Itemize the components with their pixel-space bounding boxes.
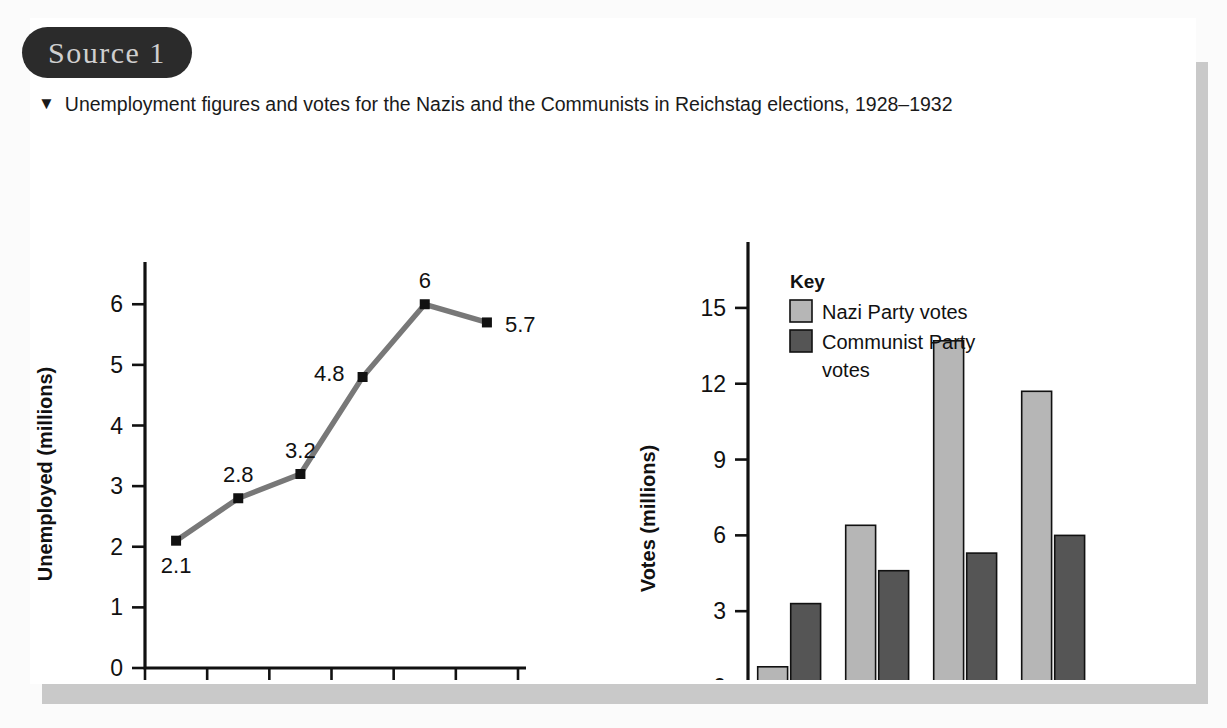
caption-text: Unemployment figures and votes for the N… [65, 92, 953, 116]
line-chart-data-point [295, 469, 305, 479]
bar-chart-y-tick-label: 9 [713, 447, 726, 473]
legend-title: Key [790, 271, 825, 292]
card-bottom-shadow [42, 692, 1208, 704]
line-chart-data-point [171, 536, 181, 546]
caption: ▼ Unemployment figures and votes for the… [38, 92, 1158, 116]
line-chart-point-label: 2.8 [223, 462, 254, 487]
line-chart-y-tick-label: 3 [110, 473, 123, 499]
legend-label-communist-line1: Communist Party [822, 331, 975, 353]
bar-chart-bar [846, 525, 876, 680]
bar-chart-y-tick-label: 6 [713, 522, 726, 548]
bar-chart-bar [879, 571, 909, 680]
bar-chart-y-tick-label: 3 [713, 598, 726, 624]
line-chart-axes [145, 262, 526, 668]
line-chart-series [176, 304, 487, 540]
legend-label-communist-line2: votes [822, 359, 870, 381]
line-chart-y-tick-label: 4 [110, 413, 123, 439]
legend-swatch-communist [790, 330, 812, 352]
bar-chart-y-tick-label: 0 [713, 674, 726, 680]
bar-chart-bar [934, 341, 964, 680]
bar-chart-y-axis-title: Votes (millions) [637, 445, 659, 592]
line-chart-data-point [233, 493, 243, 503]
legend-swatch-nazi [790, 300, 812, 322]
bar-chart-bar [791, 604, 821, 680]
line-chart-y-tick-label: 1 [110, 594, 123, 620]
bar-chart-bar [1055, 535, 1085, 680]
line-chart-y-tick-label: 6 [110, 291, 123, 317]
line-chart-y-tick-label: 0 [110, 655, 123, 680]
triangle-icon: ▼ [38, 92, 55, 116]
line-chart-point-label: 3.2 [285, 438, 316, 463]
charts-area: 0123456Unemployed (millions)1928Jan1929J… [0, 120, 1196, 680]
bar-chart-bar [758, 667, 788, 680]
line-chart-data-point [358, 372, 368, 382]
source-badge-label: Source 1 [48, 38, 166, 68]
source-badge: Source 1 [22, 27, 192, 78]
line-chart-y-tick-label: 5 [110, 352, 123, 378]
line-chart-data-point [482, 317, 492, 327]
line-chart-y-axis-title: Unemployed (millions) [34, 367, 56, 581]
line-chart-point-label: 6 [419, 268, 431, 293]
bar-chart-bar [967, 553, 997, 680]
legend-label-nazi: Nazi Party votes [822, 301, 968, 323]
charts-svg: 0123456Unemployed (millions)1928Jan1929J… [0, 120, 1196, 680]
line-chart-data-point [420, 299, 430, 309]
bar-chart-y-tick-label: 15 [700, 295, 726, 321]
line-chart-point-label: 2.1 [161, 553, 192, 578]
line-chart-point-label: 5.7 [505, 312, 536, 337]
line-chart-y-tick-label: 2 [110, 534, 123, 560]
line-chart-point-label: 4.8 [314, 361, 345, 386]
bar-chart-bar [1022, 391, 1052, 680]
bar-chart-y-tick-label: 12 [700, 371, 726, 397]
